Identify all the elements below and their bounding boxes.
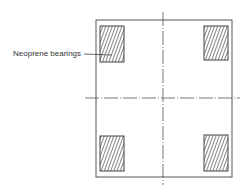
bearing-top-right	[204, 26, 228, 60]
bearing-top-left	[100, 26, 124, 62]
bearings-label: Neoprene bearings	[13, 49, 81, 58]
bearing-layout-diagram: Neoprene bearings	[0, 0, 248, 193]
bearing-bottom-right	[204, 135, 228, 171]
bearing-bottom-left	[100, 136, 124, 171]
